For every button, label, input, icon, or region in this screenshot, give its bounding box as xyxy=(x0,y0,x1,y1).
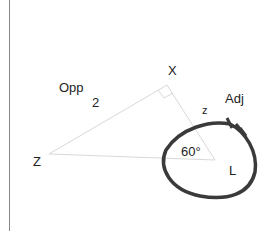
label-adj: Adj xyxy=(225,92,244,105)
label-opp-value: 2 xyxy=(92,96,99,109)
loop-tick-marks xyxy=(227,118,246,136)
label-opp: Opp xyxy=(59,81,84,94)
label-vertex-l: L xyxy=(229,164,236,177)
label-vertex-z: Z xyxy=(33,155,41,168)
triangle-diagram xyxy=(0,0,280,231)
side-zx xyxy=(49,85,167,154)
label-angle: 60° xyxy=(181,145,201,158)
label-vertex-x: X xyxy=(168,64,177,77)
label-side-z: z xyxy=(202,105,208,116)
